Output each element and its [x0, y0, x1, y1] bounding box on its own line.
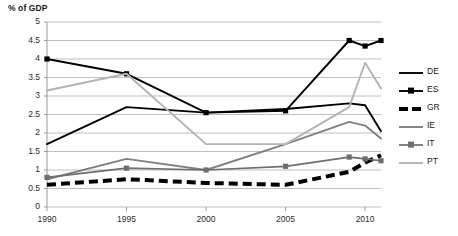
series-line-ie [47, 122, 381, 179]
y-axis-tick-label: 2.5 [14, 109, 40, 119]
series-marker-it [203, 167, 208, 172]
legend-swatch-icon-es [398, 83, 424, 95]
x-axis-tick-label: 2010 [345, 214, 385, 224]
series-marker-it [347, 154, 352, 159]
series-marker-it [124, 166, 129, 171]
legend-item-gr[interactable]: GR [398, 98, 456, 116]
series-line-de [47, 103, 381, 144]
y-axis-tick-label: 3 [14, 90, 40, 100]
series-marker-it [363, 156, 368, 161]
series-marker-it [378, 158, 383, 163]
series-marker-es [363, 43, 368, 48]
legend-item-label: IE [424, 120, 435, 130]
y-axis-tick-label: 0 [14, 201, 40, 211]
chart-legend: DEESGRIEITPT [398, 62, 456, 170]
legend-swatch-icon-pt [398, 155, 424, 167]
legend-item-ie[interactable]: IE [398, 116, 456, 134]
series-marker-es [347, 38, 352, 43]
legend-swatch-icon-gr [398, 101, 424, 113]
y-axis-tick-label: 4 [14, 53, 40, 63]
legend-item-label: IT [424, 138, 435, 148]
series-marker-es [44, 56, 49, 61]
legend-item-pt[interactable]: PT [398, 152, 456, 170]
legend-item-label: GR [424, 102, 440, 112]
legend-item-label: PT [424, 156, 438, 166]
legend-item-es[interactable]: ES [398, 80, 456, 98]
y-axis-tick-label: 4.5 [14, 35, 40, 45]
series-marker-es [203, 110, 208, 115]
x-axis-tick-label: 2000 [186, 214, 226, 224]
x-axis-tick-label: 2005 [266, 214, 306, 224]
legend-swatch-icon-ie [398, 119, 424, 131]
x-axis-tick-label: 1990 [27, 214, 67, 224]
series-line-pt [47, 63, 381, 144]
legend-item-it[interactable]: IT [398, 134, 456, 152]
series-group [44, 38, 383, 185]
series-marker-it [44, 175, 49, 180]
y-axis-tick-label: 1 [14, 164, 40, 174]
line-chart: % of GDP 00.511.522.533.544.55 199019952… [0, 0, 458, 236]
y-axis-tick-label: 3.5 [14, 72, 40, 82]
series-marker-es [378, 38, 383, 43]
y-axis-tick-label: 5 [14, 16, 40, 26]
legend-swatch-icon-de [398, 65, 424, 77]
gridlines-group [47, 22, 381, 207]
y-axis-tick-label: 0.5 [14, 183, 40, 193]
plot-area [0, 0, 458, 236]
legend-item-label: ES [424, 84, 438, 94]
x-axis-tick-label: 1995 [107, 214, 147, 224]
y-axis-tick-label: 2 [14, 127, 40, 137]
y-axis-tick-label: 1.5 [14, 146, 40, 156]
series-line-es [47, 41, 381, 113]
series-marker-es [283, 108, 288, 113]
legend-item-label: DE [424, 66, 439, 76]
series-marker-it [283, 164, 288, 169]
legend-item-de[interactable]: DE [398, 62, 456, 80]
legend-swatch-icon-it [398, 137, 424, 149]
